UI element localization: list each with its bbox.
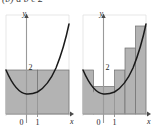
y-tick-label-2: 2 bbox=[106, 63, 110, 72]
x-axis-label: x bbox=[69, 117, 74, 126]
y-axis-label: y bbox=[22, 9, 27, 18]
fine-riemann-panel: y x 0 1 2 bbox=[77, 6, 153, 133]
x-axis-arrow bbox=[70, 112, 74, 117]
riemann-bar-2 bbox=[38, 70, 70, 114]
origin-label: 0 bbox=[97, 118, 101, 127]
y-tick-label-2: 2 bbox=[29, 63, 33, 72]
fine-riemann-svg: y x 0 1 2 bbox=[77, 6, 153, 133]
coarse-riemann-panel: y x 0 1 2 bbox=[0, 6, 76, 133]
coarse-riemann-svg: y x 0 1 2 bbox=[0, 6, 76, 133]
x-tick-label-1: 1 bbox=[113, 118, 117, 127]
x-tick-label-1: 1 bbox=[36, 118, 40, 127]
riemann-bar-6 bbox=[136, 26, 147, 114]
x-axis-label: x bbox=[146, 117, 151, 126]
riemann-bar-4 bbox=[115, 70, 126, 114]
y-axis-label: y bbox=[99, 9, 104, 18]
origin-label: 0 bbox=[20, 118, 24, 127]
caption-text: (b) a b c 2 bbox=[2, 0, 43, 4]
figure-root: (b) a b c 2 bbox=[0, 0, 153, 135]
x-axis-arrow bbox=[147, 112, 151, 117]
